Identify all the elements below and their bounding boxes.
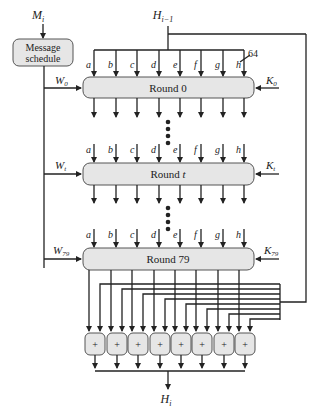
svg-text:e: e	[173, 144, 178, 155]
ellipsis-dots-1	[166, 120, 171, 146]
svg-text:d: d	[151, 229, 157, 240]
svg-text:b: b	[108, 144, 113, 155]
round79-inputs	[94, 229, 244, 247]
svg-text:Round 79: Round 79	[146, 253, 190, 265]
svg-text:+: +	[92, 339, 98, 350]
round-0-box: Round 0	[83, 77, 254, 98]
svg-text:c: c	[130, 144, 135, 155]
round79-outputs	[89, 270, 239, 331]
svg-text:g: g	[215, 229, 220, 240]
round-t-box: Round t	[83, 163, 254, 185]
svg-text:Round t: Round t	[150, 168, 186, 180]
feedback-wire	[280, 34, 306, 302]
bus-width-label: 64	[248, 48, 258, 59]
svg-text:+: +	[242, 339, 248, 350]
round0-register-labels: a b c d e f g h	[86, 59, 241, 70]
svg-text:e: e	[173, 229, 178, 240]
w79-label: W79	[53, 244, 70, 258]
svg-text:f: f	[194, 59, 198, 70]
svg-text:f: f	[194, 229, 198, 240]
svg-text:+: +	[157, 339, 163, 350]
sha512-diagram: Mi Message schedule W0 Wt W79 Hi−1 a b c	[0, 0, 322, 412]
svg-text:+: +	[178, 339, 184, 350]
roundt-register-labels: a b c d e f g h	[86, 144, 241, 155]
svg-text:Mi: Mi	[31, 8, 44, 24]
wt-label: Wt	[55, 159, 67, 173]
adders	[85, 333, 255, 355]
svg-text:a: a	[86, 229, 91, 240]
svg-text:c: c	[130, 229, 135, 240]
round0-outputs	[94, 98, 244, 117]
round79-register-labels: a b c d e f g h	[86, 229, 241, 240]
svg-text:Round 0: Round 0	[149, 82, 187, 94]
svg-text:schedule: schedule	[26, 53, 62, 64]
svg-text:h: h	[236, 229, 241, 240]
svg-text:d: d	[151, 59, 157, 70]
svg-text:h: h	[236, 59, 241, 70]
message-schedule-box: Message schedule	[13, 39, 73, 66]
message-input: Mi	[31, 8, 44, 38]
roundt-inputs	[94, 144, 244, 162]
svg-text:+: +	[135, 339, 141, 350]
round-79-box: Round 79	[83, 248, 254, 270]
svg-text:+: +	[199, 339, 205, 350]
kt-label: Kt	[265, 159, 276, 173]
svg-text:c: c	[130, 59, 135, 70]
svg-text:a: a	[86, 144, 91, 155]
w0-label: W0	[55, 74, 68, 88]
svg-text:Message: Message	[26, 42, 62, 53]
adder-outputs	[95, 355, 245, 389]
svg-text:+: +	[221, 339, 227, 350]
feedforward-bus	[100, 284, 280, 331]
svg-text:g: g	[215, 144, 220, 155]
k79-label: K79	[263, 244, 279, 258]
ellipsis-dots-2	[166, 206, 171, 232]
svg-text:+: +	[114, 339, 120, 350]
svg-text:e: e	[173, 59, 178, 70]
svg-text:a: a	[86, 59, 91, 70]
svg-text:b: b	[108, 59, 113, 70]
round0-inputs	[94, 50, 244, 76]
svg-text:h: h	[236, 144, 241, 155]
roundt-outputs	[94, 185, 244, 203]
svg-text:Hi−1: Hi−1	[152, 8, 173, 24]
output-hash-label: Hi	[160, 392, 172, 408]
previous-hash-input: Hi−1	[94, 8, 306, 50]
k0-label: K0	[265, 74, 277, 88]
svg-text:f: f	[194, 144, 198, 155]
svg-text:g: g	[215, 59, 220, 70]
svg-text:d: d	[151, 144, 157, 155]
svg-text:b: b	[108, 229, 113, 240]
